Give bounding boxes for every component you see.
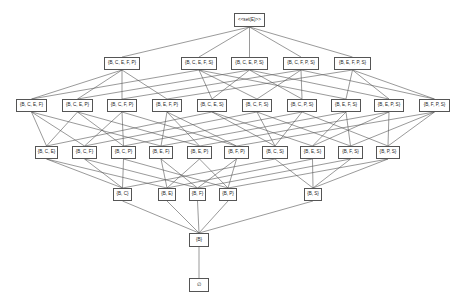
node-label: {B, F, S} xyxy=(342,150,359,155)
edge-BEFPS-BEPS xyxy=(353,70,390,99)
node-b: {B} xyxy=(189,233,209,247)
node-befs: {B, E, F, S} xyxy=(331,99,361,112)
node-label: {B, C, E, P} xyxy=(66,103,89,108)
node-empty-set: ∅ xyxy=(189,278,209,292)
node-beps: {B, E, P, S} xyxy=(374,99,404,112)
edge-BC-B xyxy=(123,201,200,233)
edge-BFPS-BPS xyxy=(388,112,435,146)
edge-BFS-BF xyxy=(198,159,351,188)
edge-BFS-BS xyxy=(313,159,351,188)
node-label: {B, E} xyxy=(161,192,173,197)
node-befp: {B, E, F, P} xyxy=(152,99,182,112)
node-label: <<set(E)>> xyxy=(238,18,261,23)
edge-BCF-BF xyxy=(85,159,198,188)
node-label: {B, C, F, P} xyxy=(111,103,133,108)
edge-BE-B xyxy=(167,201,199,233)
edge-BCFPS-BCFP xyxy=(122,70,301,99)
node-bfps: {B, F, P, S} xyxy=(419,99,450,112)
node-bcps: {B, C, P, S} xyxy=(287,99,317,112)
node-label: {B, C, E, F, P} xyxy=(108,61,136,66)
node-label: {B, C, E} xyxy=(38,150,56,155)
edge-BEPS-BES xyxy=(313,112,390,146)
node-label: {B, C, E, S} xyxy=(200,103,223,108)
edge-BEFP-BEF xyxy=(161,112,167,146)
edge-BEF-BF xyxy=(161,159,198,188)
node-bcfs: {B, C, F, S} xyxy=(242,99,272,112)
node-label: {B} xyxy=(196,238,202,243)
node-label: {B, E, P, S} xyxy=(378,103,400,108)
edge-BCE-BE xyxy=(47,159,168,188)
edge-BCPS-BCP xyxy=(124,112,303,146)
node-bces: {B, C, E, S} xyxy=(197,99,227,112)
edge-BCFPS-BCPS xyxy=(301,70,302,99)
edge-BCP-BC xyxy=(123,159,124,188)
edge-BEFS-BFS xyxy=(346,112,351,146)
hasse-diagram: <<set(E)>>{B, C, E, F, P}{B, C, E, F, S}… xyxy=(0,0,463,308)
node-label: {B, P, S} xyxy=(380,150,397,155)
node-bf: {B, F} xyxy=(189,188,206,201)
node-label: {B, C, P, S} xyxy=(291,103,314,108)
edge-BEFP-BFP xyxy=(167,112,237,146)
node-label: {B, E, F, P, S} xyxy=(339,61,366,66)
node-bcef: {B, C, E, F} xyxy=(16,99,47,112)
edge-top-BCFPS xyxy=(250,27,302,57)
node-bfp: {B, F, P} xyxy=(224,146,249,159)
edge-BCF-BC xyxy=(85,159,123,188)
node-label: ∅ xyxy=(197,283,201,288)
edge-BCFS-BCF xyxy=(85,112,258,146)
node-bcefs: {B, C, E, F, S} xyxy=(181,57,217,70)
node-bceps: {B, C, E, P, S} xyxy=(231,57,268,70)
edge-BES-BS xyxy=(313,159,314,188)
node-label: {B, C, F, S} xyxy=(246,103,268,108)
edge-BCEFS-BCFS xyxy=(199,70,257,99)
node-bcfp: {B, C, F, P} xyxy=(107,99,137,112)
node-bc: {B, C} xyxy=(113,188,132,201)
edge-BFP-BP xyxy=(228,159,237,188)
node-label: {B, E, P} xyxy=(191,150,208,155)
node-label: {B, C, F, P, S} xyxy=(287,61,315,66)
edge-BEFPS-BFPS xyxy=(353,70,435,99)
node-label: {B, F} xyxy=(192,192,204,197)
node-befps: {B, E, F, P, S} xyxy=(334,57,371,70)
edge-BCFP-BCP xyxy=(122,112,124,146)
edge-BCPS-BPS xyxy=(302,112,388,146)
edge-top-BEFPS xyxy=(250,27,353,57)
edge-BCEFP-BEFP xyxy=(122,70,167,99)
node-bef: {B, E, F} xyxy=(149,146,173,159)
node-bcefp: {B, C, E, F, P} xyxy=(104,57,140,70)
node-label: {B, C, F} xyxy=(76,150,93,155)
edge-BCEPS-BCEP xyxy=(78,70,250,99)
edge-BCE-BC xyxy=(47,159,123,188)
node-bcfps: {B, C, F, P, S} xyxy=(283,57,319,70)
edge-BEFPS-BEFS xyxy=(346,70,353,99)
node-label: {B, E, S} xyxy=(304,150,321,155)
node-top: <<set(E)>> xyxy=(234,13,265,27)
edge-top-BCEFP xyxy=(122,27,250,57)
node-label: {B, C, E, F, S} xyxy=(185,61,213,66)
node-bcep: {B, C, E, P} xyxy=(62,99,93,112)
node-bcf: {B, C, F} xyxy=(72,146,97,159)
node-bs: {B, S} xyxy=(304,188,322,201)
node-bcs: {B, C, S} xyxy=(262,146,288,159)
edge-BCEF-BCF xyxy=(32,112,85,146)
node-label: {B, S} xyxy=(307,192,319,197)
edge-BCEPS-BCES xyxy=(212,70,250,99)
node-label: {B, C, S} xyxy=(266,150,284,155)
edge-BEPS-BPS xyxy=(388,112,389,146)
node-label: {B, E, F, S} xyxy=(335,103,357,108)
node-label: {B, C, P} xyxy=(115,150,133,155)
node-bps: {B, P, S} xyxy=(376,146,400,159)
edge-BF-B xyxy=(198,201,200,233)
node-bes: {B, E, S} xyxy=(300,146,325,159)
edge-BPS-BS xyxy=(313,159,388,188)
node-label: {B, C, E, P, S} xyxy=(235,61,263,66)
node-label: {B, C} xyxy=(116,192,128,197)
edge-BFP-BF xyxy=(198,159,237,188)
edge-BCEFP-BCEF xyxy=(32,70,123,99)
edge-BEFS-BEF xyxy=(161,112,346,146)
node-label: {B, P} xyxy=(222,192,234,197)
edge-BEP-BE xyxy=(167,159,200,188)
node-label: {B, F, P} xyxy=(228,150,245,155)
node-label: {B, F, P, S} xyxy=(424,103,446,108)
edge-BCP-BP xyxy=(124,159,229,188)
